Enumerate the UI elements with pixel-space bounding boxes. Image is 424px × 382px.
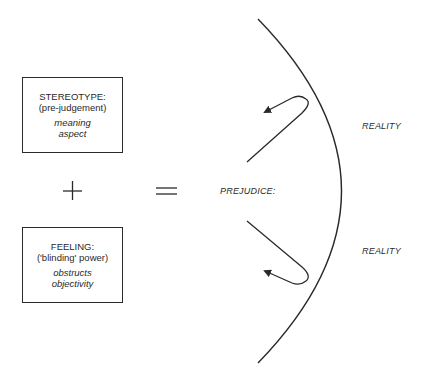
bottom-hook-arrow-icon bbox=[247, 221, 308, 284]
reality-label-bottom: REALITY bbox=[362, 246, 401, 256]
stereotype-subtitle: (pre-judgement) bbox=[39, 102, 107, 114]
feeling-italic-line-2: objectivity bbox=[52, 278, 94, 290]
feeling-subtitle: ('blinding' power) bbox=[37, 252, 108, 264]
diagram-lines bbox=[0, 0, 424, 382]
plus-icon bbox=[63, 181, 82, 200]
top-hook-arrow-icon bbox=[247, 96, 308, 162]
feeling-italic-line-1: obstructs bbox=[53, 267, 92, 279]
feeling-title: FEELING: bbox=[51, 241, 94, 253]
reality-label-top: REALITY bbox=[362, 121, 401, 131]
stereotype-title: STEREOTYPE: bbox=[39, 91, 106, 103]
equals-icon bbox=[156, 188, 177, 194]
feeling-box: FEELING: ('blinding' power) obstructs ob… bbox=[22, 227, 123, 303]
prejudice-label: PREJUDICE: bbox=[220, 186, 276, 196]
stereotype-box: STEREOTYPE: (pre-judgement) meaning aspe… bbox=[22, 77, 123, 153]
stereotype-italic-line-2: aspect bbox=[59, 128, 87, 140]
stereotype-italic-line-1: meaning bbox=[54, 117, 90, 129]
prejudice-diagram: STEREOTYPE: (pre-judgement) meaning aspe… bbox=[0, 0, 424, 382]
